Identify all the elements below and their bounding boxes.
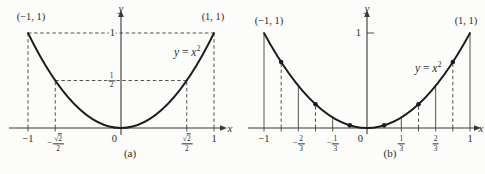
- origin-label: 0: [358, 134, 363, 145]
- sample-point-dot: [348, 123, 353, 128]
- figure-parabola-two-panels: xy0(−1, 1)(1, 1)y = x2−1−√22√221112(a)xy…: [0, 0, 485, 174]
- axis-y-label: y: [119, 3, 124, 14]
- sample-point-dot: [279, 60, 284, 65]
- panel-caption: (b): [384, 148, 397, 159]
- x-tick-label: √22: [181, 135, 192, 152]
- curve-equation-label: y = x2: [415, 63, 441, 75]
- corner-point-label: (1, 1): [455, 16, 478, 27]
- x-tick-label: 1: [467, 134, 472, 145]
- x-tick-label: 23: [432, 135, 439, 152]
- plot-canvas: [0, 0, 485, 174]
- corner-point-label: (1, 1): [202, 12, 225, 23]
- x-tick-label: 1: [211, 134, 216, 145]
- curve-equation-label: y = x2: [174, 47, 200, 59]
- y-tick-label: 1: [109, 28, 116, 39]
- sample-point-dot: [416, 102, 421, 107]
- sample-point-dot: [382, 123, 387, 128]
- x-tick-label: −1: [22, 134, 33, 145]
- axis-x-label: x: [479, 123, 484, 134]
- x-tick-label: −13: [327, 135, 339, 152]
- y-tick-label: 12: [107, 72, 116, 89]
- sample-point-dot: [451, 60, 456, 65]
- axis-y-label: y: [365, 3, 370, 14]
- y-tick-label: 1: [355, 28, 362, 39]
- sample-point-dot: [313, 102, 318, 107]
- corner-point-label: (−1, 1): [17, 12, 46, 23]
- x-tick-label: −1: [258, 134, 269, 145]
- panel-caption: (a): [124, 148, 136, 159]
- origin-label: 0: [112, 134, 117, 145]
- corner-point-label: (−1, 1): [255, 16, 284, 27]
- x-tick-label: 13: [398, 135, 405, 152]
- x-tick-label: −√22: [47, 135, 63, 152]
- axis-x-label: x: [228, 123, 233, 134]
- x-tick-label: −23: [292, 135, 304, 152]
